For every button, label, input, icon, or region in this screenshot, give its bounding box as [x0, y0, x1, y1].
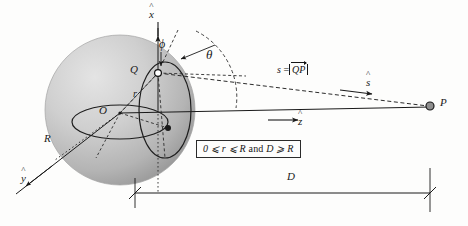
y-axis-label-text: y	[21, 172, 26, 184]
sphere-outline	[45, 35, 195, 185]
x-axis-label-text: x	[149, 8, 154, 20]
angle-phi-label: ϕ	[159, 38, 165, 50]
point-Q-label: Q	[130, 64, 138, 75]
angle-theta-label: θ	[206, 48, 212, 61]
s-axis-label: ^ s	[366, 72, 370, 88]
z-axis-label: ^ z	[298, 111, 302, 127]
equator-marker-dot	[165, 125, 171, 131]
sphere-body	[45, 35, 195, 185]
point-Q-marker	[155, 70, 162, 77]
s-hat-arrow	[340, 90, 372, 94]
theta-arc	[196, 31, 237, 108]
ray-QP-line	[158, 73, 428, 106]
y-axis-label: ^ y	[21, 168, 26, 184]
diagram-svg	[0, 0, 468, 226]
constraint-conjunction: and	[249, 143, 264, 154]
separation-vector: QP	[291, 64, 306, 75]
point-O-marker	[118, 111, 121, 114]
separation-magnitude-bars: QP	[289, 64, 308, 75]
ray-QP	[158, 73, 428, 106]
separation-lead: s	[277, 64, 281, 75]
radius-r-label: r	[133, 89, 137, 99]
point-O-label: O	[99, 105, 107, 116]
figure-canvas: ^ x ^ y ^ z ^ s O Q P R r D θ ϕ s =QP 0 …	[0, 0, 468, 226]
separation-annotation: s =QP	[277, 64, 308, 75]
point-P-label: P	[440, 97, 447, 108]
constraint-part2: D ⩾ R	[266, 143, 293, 154]
point-P-marker	[426, 102, 434, 110]
constraint-part1: 0 ⩽ r ⩽ R	[203, 143, 246, 154]
y-axis-arrow	[26, 166, 52, 186]
s-axis-label-text: s	[366, 76, 370, 88]
distance-D-label: D	[287, 171, 295, 182]
dimension-D	[129, 168, 436, 212]
constraint-box: 0 ⩽ r ⩽ R and D ⩾ R	[196, 140, 301, 158]
z-axis-label-text: z	[298, 115, 302, 127]
radius-R-label: R	[44, 133, 51, 144]
x-axis-label: ^ x	[149, 4, 154, 20]
